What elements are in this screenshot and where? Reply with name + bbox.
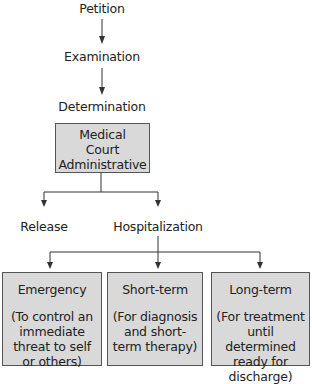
box-description: (To control an immediate threat to self … (3, 309, 101, 369)
outcome-release: Release (20, 219, 67, 234)
box-title: Emergency (3, 282, 101, 297)
hospitalization-short-term-box: Short-term (For diagnosis and short-term… (107, 272, 203, 366)
arrowhead-icon (99, 36, 105, 44)
hospitalization-long-term-box: Long-term (For treatment until determine… (211, 272, 310, 366)
step-petition: Petition (79, 1, 125, 16)
arrowhead-icon (99, 87, 105, 95)
determination-type-box: Medical Court Administrative (55, 123, 150, 173)
hospitalization-emergency-box: Emergency (To control an immediate threa… (2, 272, 102, 366)
outcome-hospitalization: Hospitalization (113, 219, 203, 234)
box-title: Short-term (108, 282, 202, 297)
step-examination: Examination (64, 49, 140, 64)
step-determination: Determination (58, 99, 145, 114)
box-description: (For treatment until determined ready fo… (212, 309, 309, 384)
determination-court: Court (56, 142, 149, 157)
box-title: Long-term (212, 282, 309, 297)
determination-administrative: Administrative (56, 157, 149, 172)
determination-medical: Medical (56, 127, 149, 142)
box-description: (For diagnosis and short-term therapy) (108, 309, 202, 354)
